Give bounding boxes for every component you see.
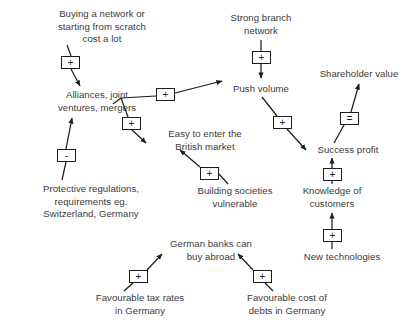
node-shareholder-value: Shareholder value bbox=[311, 68, 407, 81]
sign-label: + bbox=[324, 169, 341, 180]
edge-alliances-to-easy-lower bbox=[132, 130, 146, 143]
causal-loop-diagram: Buying a network or starting from scratc… bbox=[0, 0, 408, 334]
node-protective-regulations: Protective regulations, requirements eg.… bbox=[14, 183, 168, 221]
edge-success-to-shareholder-upper bbox=[351, 84, 359, 112]
node-easy-to-enter-market: Easy to enter the British market bbox=[150, 128, 260, 153]
sign-newtech-to-knowledge: + bbox=[323, 229, 342, 242]
sign-label: - bbox=[58, 150, 75, 161]
edge-building-to-easy-lower bbox=[219, 174, 228, 184]
sign-taxrates-to-germanbanks: + bbox=[129, 270, 148, 283]
edge-buying-to-alliances-upper bbox=[67, 45, 71, 56]
node-alliances-joint-ventures: Alliances, joint ventures, mergers bbox=[37, 89, 157, 114]
sign-building-to-easy: + bbox=[200, 167, 219, 180]
sign-knowledge-to-success: + bbox=[323, 168, 342, 181]
sign-alliances-to-easy: + bbox=[122, 117, 141, 130]
sign-success-to-shareholder: = bbox=[340, 112, 359, 125]
sign-label: + bbox=[253, 52, 270, 63]
node-success-profit: Success profit bbox=[300, 144, 396, 157]
node-favourable-cost-debts: Favourable cost of debts in Germany bbox=[227, 292, 347, 317]
node-favourable-tax-rates: Favourable tax rates in Germany bbox=[78, 292, 202, 317]
sign-label: + bbox=[157, 89, 174, 100]
sign-label: + bbox=[254, 271, 271, 282]
edge-success-to-shareholder-lower bbox=[334, 125, 344, 143]
edge-protective-to-alliances-lower bbox=[62, 162, 66, 180]
node-buying-network: Buying a network or starting from scratc… bbox=[28, 8, 176, 46]
sign-push-to-success: + bbox=[273, 116, 292, 129]
edge-buying-to-alliances-lower bbox=[71, 69, 80, 86]
sign-debts-to-germanbanks: + bbox=[253, 270, 272, 283]
node-german-banks-buy-abroad: German banks can buy abroad bbox=[155, 238, 267, 263]
edge-taxrates-to-germanbanks-lower bbox=[124, 283, 133, 291]
sign-label: + bbox=[324, 230, 341, 241]
node-knowledge-of-customers: Knowledge of customers bbox=[288, 185, 376, 210]
edge-protective-to-alliances-upper bbox=[66, 118, 72, 149]
edge-push-to-success-upper bbox=[262, 97, 277, 116]
sign-label: + bbox=[123, 118, 140, 129]
sign-label: = bbox=[341, 113, 358, 124]
sign-label: + bbox=[201, 168, 218, 179]
sign-buying-to-alliances: + bbox=[61, 56, 80, 69]
node-strong-branch-network: Strong branch network bbox=[213, 12, 309, 37]
node-new-technologies: New technologies bbox=[286, 251, 398, 264]
node-push-volume: Push volume bbox=[215, 83, 307, 96]
edge-debts-to-germanbanks-lower bbox=[265, 283, 273, 291]
sign-alliances-to-push: + bbox=[156, 88, 175, 101]
sign-protective-to-alliances: - bbox=[57, 149, 76, 162]
sign-strong-to-push: + bbox=[252, 51, 271, 64]
node-building-societies: Building societies vulnerable bbox=[182, 185, 288, 210]
sign-label: + bbox=[130, 271, 147, 282]
sign-label: + bbox=[62, 57, 79, 68]
sign-label: + bbox=[274, 117, 291, 128]
